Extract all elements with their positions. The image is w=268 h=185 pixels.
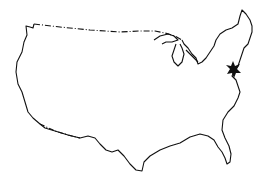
us-map [0, 0, 268, 185]
southern-border [40, 124, 80, 138]
northern-border [34, 24, 182, 40]
us-outline [16, 10, 252, 171]
great-lakes [154, 34, 198, 66]
